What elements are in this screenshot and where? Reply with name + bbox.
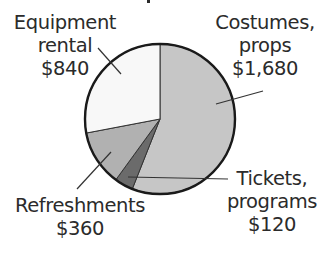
label-costumes-line1: Costumes, xyxy=(210,11,320,34)
label-costumes-props: Costumes, props $1,680 xyxy=(210,11,320,80)
label-refreshments-line1: Refreshments xyxy=(5,194,155,217)
label-equipment-line2: rental xyxy=(10,34,120,57)
label-costumes-value: $1,680 xyxy=(210,57,320,80)
label-tickets-line2: programs xyxy=(222,190,322,213)
label-tickets-value: $120 xyxy=(222,213,322,236)
label-tickets-programs: Tickets, programs $120 xyxy=(222,167,322,236)
label-costumes-line2: props xyxy=(210,34,320,57)
label-equipment-value: $840 xyxy=(10,57,120,80)
label-tickets-line1: Tickets, xyxy=(222,167,322,190)
label-equipment-rental: Equipment rental $840 xyxy=(10,11,120,80)
label-refreshments-value: $360 xyxy=(5,217,155,240)
label-refreshments: Refreshments $360 xyxy=(5,194,155,240)
label-equipment-line1: Equipment xyxy=(10,11,120,34)
